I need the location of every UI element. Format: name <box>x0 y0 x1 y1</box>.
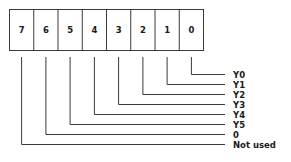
leader-line-bit-0 <box>191 57 225 75</box>
label-bit-1: Y1 <box>232 80 245 90</box>
bit-cell-5: 5 <box>67 25 73 35</box>
label-bit-6: 0 <box>233 130 239 140</box>
label-bit-3: Y3 <box>232 100 245 110</box>
label-bit-7: Not used <box>233 140 276 150</box>
leader-line-bit-2 <box>143 57 225 95</box>
label-bit-0: Y0 <box>232 70 245 80</box>
bit-labels: Y0 Y1 Y2 Y3 Y4 Y5 0 Not used <box>232 70 276 150</box>
register-box: 7 6 5 4 3 2 1 0 <box>10 10 204 51</box>
bit-cell-4: 4 <box>91 25 97 35</box>
leader-line-bit-6 <box>46 57 225 135</box>
leader-line-bit-1 <box>167 57 225 85</box>
bit-cell-0: 0 <box>188 25 194 35</box>
bit-cell-3: 3 <box>116 25 122 35</box>
bit-cell-6: 6 <box>43 25 49 35</box>
bit-cell-2: 2 <box>140 25 146 35</box>
leader-lines <box>22 57 225 145</box>
bit-cell-1: 1 <box>164 25 170 35</box>
label-bit-4: Y4 <box>232 110 245 120</box>
label-bit-2: Y2 <box>232 90 245 100</box>
leader-line-bit-4 <box>94 57 225 115</box>
label-bit-5: Y5 <box>232 120 245 130</box>
bit-cell-7: 7 <box>19 25 25 35</box>
bit-register-diagram: 7 6 5 4 3 2 1 0 Y0 Y1 Y2 Y3 Y4 Y5 0 Not … <box>0 0 291 162</box>
leader-line-bit-7 <box>22 57 225 145</box>
leader-line-bit-3 <box>119 57 225 105</box>
